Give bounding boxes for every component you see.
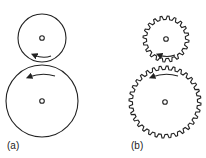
small-gear-rotation-arrow-icon [159,55,175,57]
panel-a-friction-wheels [6,14,78,137]
panel-a-label: (a) [7,140,19,151]
large-gear-rotation-arrow-icon [152,74,178,77]
large-wheel-axle [40,99,45,104]
large-gear [129,66,201,138]
small-gear-axle [164,37,169,42]
large-gear-axle [163,100,168,105]
gear-diagram: (a) (b) [0,0,206,158]
large-wheel-rotation-arrow-icon [29,74,55,77]
small-gear [143,16,189,62]
small-wheel-axle [40,36,45,41]
panel-b-spur-gears [129,16,201,138]
diagram-canvas [0,0,206,158]
panel-b-label: (b) [131,140,143,151]
small-wheel-rotation-arrow-icon [34,55,51,57]
large-wheel [6,65,78,137]
small-wheel [18,14,66,62]
